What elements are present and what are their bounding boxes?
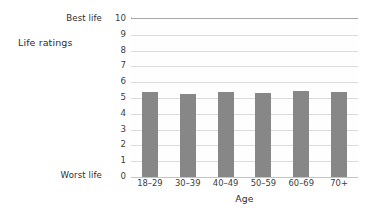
- y-axis-tick-label: 2: [96, 139, 126, 149]
- y-axis-tick-label: 4: [96, 108, 126, 118]
- bar[interactable]: [142, 92, 158, 177]
- y-axis-tick-label: 7: [96, 60, 126, 70]
- y-axis-tick-label: 8: [96, 45, 126, 55]
- bar[interactable]: [331, 92, 347, 177]
- plot-area: [131, 18, 358, 177]
- y-axis-tick-label: 0: [96, 171, 126, 181]
- bar-chart: 109876543210 18–2930–3940–4950–5960–6970…: [0, 0, 373, 223]
- bar[interactable]: [180, 94, 196, 177]
- x-axis-title: Age: [131, 193, 358, 204]
- bar[interactable]: [218, 92, 234, 177]
- bar-series: [131, 19, 358, 177]
- y-axis-tick-labels: 109876543210: [96, 13, 126, 181]
- y-axis-tick-label: 1: [96, 155, 126, 165]
- x-axis-tick-label: 70+: [317, 178, 361, 189]
- bar[interactable]: [255, 93, 271, 177]
- y-axis-tick-label: 3: [96, 124, 126, 134]
- y-axis-tick-label: 6: [96, 76, 126, 86]
- y-axis-tick-label: 5: [96, 92, 126, 102]
- bar[interactable]: [293, 91, 309, 177]
- x-axis-tick-labels: 18–2930–3940–4950–5960–6970+: [131, 178, 358, 190]
- y-axis-tick-label: 10: [96, 13, 126, 23]
- y-axis-tick-label: 9: [96, 29, 126, 39]
